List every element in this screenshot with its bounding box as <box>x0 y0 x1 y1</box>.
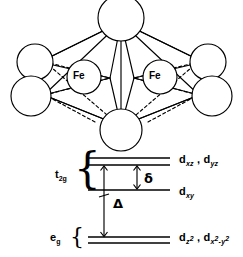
orbital-label-dxz-dyz: dxz , dyz <box>179 153 218 167</box>
orbital-label-dz2-dx2y2: dz2 , dx2-y2 <box>179 231 229 245</box>
group-label-t2g: t2g <box>55 168 67 182</box>
delta-small-arrow <box>134 166 141 189</box>
figure-root: Fe Fe <box>0 0 243 257</box>
group-brace-t2g: { <box>74 148 101 190</box>
group-label-t2g-sub: 2g <box>59 175 67 182</box>
orbital-label-dxy: dxy <box>179 185 194 199</box>
level-line-dz2-dx2y2 <box>88 237 170 243</box>
delta-small-symbol: δ <box>144 171 153 186</box>
energy-level-diagram <box>0 0 243 257</box>
group-brace-eg: { <box>70 226 84 248</box>
group-label-eg: eg <box>50 231 60 245</box>
group-label-eg-sub: g <box>56 238 60 245</box>
delta-large-symbol: Δ <box>113 196 123 211</box>
